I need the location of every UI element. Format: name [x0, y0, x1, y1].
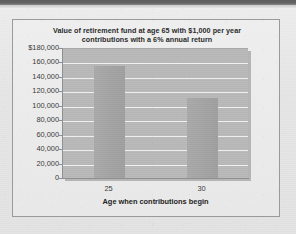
y-axis-tick-label: $180,000 — [3, 44, 59, 52]
y-axis-tick-label: 40,000 — [3, 145, 59, 153]
gridline — [63, 150, 248, 151]
y-axis-tick-label: 120,000 — [3, 87, 59, 95]
plot-area — [62, 48, 248, 178]
y-axis-tick-label: 20,000 — [3, 160, 59, 168]
y-axis-tick-mark — [59, 77, 62, 78]
gridline — [63, 136, 248, 137]
y-axis-tick-mark — [59, 106, 62, 107]
gridline — [63, 107, 248, 108]
y-axis-tick-label: 0 — [3, 174, 59, 182]
bar — [94, 66, 125, 178]
chart-title-line-2: contributions with a 6% annual return — [22, 35, 272, 44]
gridline — [63, 63, 248, 64]
x-axis-tick-label: 25 — [89, 184, 129, 193]
y-axis-tick-mark — [59, 48, 62, 49]
gridline — [63, 78, 248, 79]
y-axis-line — [62, 48, 63, 179]
gridline — [63, 92, 248, 93]
y-axis-tick-mark — [59, 62, 62, 63]
x-axis-line — [62, 178, 249, 179]
y-axis-tick-label: 60,000 — [3, 131, 59, 139]
plot-texture — [63, 49, 248, 178]
gridline — [63, 121, 248, 122]
y-axis-tick-mark — [59, 164, 62, 165]
y-axis-tick-mark — [59, 149, 62, 150]
y-axis-tick-mark — [59, 178, 62, 179]
y-axis-tick-label: 80,000 — [3, 116, 59, 124]
y-axis-tick-mark — [59, 135, 62, 136]
y-axis-tick-mark — [59, 120, 62, 121]
y-axis-tick-label: 100,000 — [3, 102, 59, 110]
bar — [187, 98, 218, 178]
x-axis-tick-label: 30 — [182, 184, 222, 193]
y-axis-tick-label: 140,000 — [3, 73, 59, 81]
y-axis-tick-labels: $180,000160,000140,000120,000100,00080,0… — [0, 0, 59, 234]
y-axis-tick-label: 160,000 — [3, 58, 59, 66]
y-axis-tick-mark — [59, 91, 62, 92]
chart-title: Value of retirement fund at age 65 with … — [22, 26, 272, 44]
x-axis-title: Age when contributions begin — [62, 197, 249, 206]
gridline — [63, 165, 248, 166]
chart-title-line-1: Value of retirement fund at age 65 with … — [22, 26, 272, 35]
